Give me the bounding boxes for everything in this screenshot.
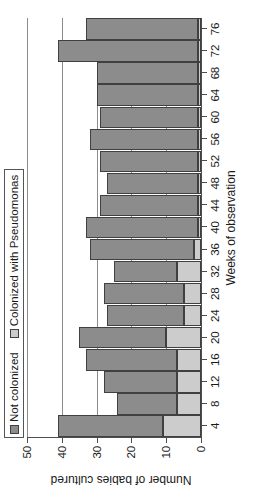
chart-legend: Not colonized Colonized with Pseudomonas [4,169,24,438]
bar-segment-not-colonized [97,62,198,83]
x-axis-tick-label: 48 [209,177,221,189]
x-axis-tick-label: 76 [209,23,221,35]
x-axis-tick-label: 20 [209,332,221,344]
y-axis-tick [27,437,28,443]
x-axis-tick-label: 24 [209,310,221,322]
bar-segment-not-colonized [100,195,197,216]
y-axis-tick-label: 10 [160,446,172,458]
bar-segment-colonized [198,195,201,216]
x-axis-tick-label: 12 [209,376,221,388]
bar-group [27,173,201,194]
y-axis-tick-label: 20 [125,446,137,458]
y-axis-tick [201,437,202,443]
bar-segment-not-colonized [86,217,197,238]
x-axis-tick [201,138,207,139]
bar-group [27,371,201,392]
y-axis-tick-label: 30 [91,446,103,458]
legend-item-not-colonized: Not colonized [7,352,21,434]
bar-segment-colonized [198,18,201,39]
bar-group [27,40,201,61]
x-axis-tick-label: 60 [209,111,221,123]
legend-swatch-colonized-with-pseudomonas [10,329,19,338]
x-axis-tick-label: 28 [209,287,221,299]
x-axis-tick-label: 68 [209,67,221,79]
bar-group [27,129,201,150]
y-axis-tick [62,437,63,443]
bar-group [27,107,201,128]
y-axis-tick [97,437,98,443]
x-axis-tick-label: 72 [209,45,221,57]
bar-segment-not-colonized [107,173,197,194]
bar-segment-not-colonized [58,415,162,436]
bar-segment-colonized [177,261,201,282]
bar-segment-not-colonized [100,151,197,172]
bar-segment-not-colonized [79,327,166,348]
x-axis-tick [201,160,207,161]
x-axis-tick [201,271,207,272]
x-axis-tick [201,72,207,73]
bar-group [27,195,201,216]
y-axis-tick [131,437,132,443]
x-axis-tick [201,227,207,228]
bar-segment-colonized [177,371,201,392]
bar-segment-colonized [177,393,201,414]
bar-segment-not-colonized [117,393,176,414]
y-axis-tick-label: 40 [56,446,68,458]
bar-segment-colonized [163,415,201,436]
bar-group [27,393,201,414]
bar-segment-not-colonized [104,283,184,304]
x-axis-tick-label: 56 [209,133,221,145]
bar-segment-not-colonized [114,261,177,282]
x-axis-tick [201,425,207,426]
x-axis-tick-label: 44 [209,199,221,211]
bar-group [27,327,201,348]
x-axis-tick [201,359,207,360]
x-axis-tick [201,403,207,404]
legend-label-colonized-with-pseudomonas: Colonized with Pseudomonas [7,175,21,327]
x-axis-tick [201,337,207,338]
x-axis-tick [201,293,207,294]
chart-figure: Not colonized Colonized with Pseudomonas… [0,0,271,501]
x-axis-tick-label: 16 [209,354,221,366]
bar-segment-colonized [198,85,201,106]
legend-label-not-colonized: Not colonized [7,352,21,422]
bar-group [27,151,201,172]
bar-group [27,239,201,260]
x-axis-tick [201,249,207,250]
y-axis-title: Number of babies cultured [34,473,209,487]
bar-segment-not-colonized [104,371,177,392]
bar-segment-not-colonized [97,85,198,106]
bar-group [27,349,201,370]
legend-item-colonized-with-pseudomonas: Colonized with Pseudomonas [7,175,21,339]
x-axis-tick [201,50,207,51]
bar-segment-colonized [198,129,201,150]
x-axis-tick [201,182,207,183]
x-axis-tick-label: 32 [209,265,221,277]
bar-group [27,217,201,238]
y-axis-tick-label: 0 [195,446,207,452]
x-axis-tick-label: 64 [209,89,221,101]
x-axis-tick [201,204,207,205]
x-axis-tick-label: 40 [209,221,221,233]
bar-segment-colonized [177,349,201,370]
bar-segment-colonized [184,283,201,304]
y-axis-tick [166,437,167,443]
bar-segment-not-colonized [90,239,194,260]
bar-group [27,62,201,83]
bar-segment-colonized [198,217,201,238]
bar-group [27,305,201,326]
x-axis-tick [201,315,207,316]
bar-segment-not-colonized [107,305,184,326]
bar-segment-colonized [184,305,201,326]
x-axis-tick-label: 4 [209,423,221,429]
x-axis-tick [201,381,207,382]
bar-segment-colonized [198,151,201,172]
x-axis-tick [201,94,207,95]
bar-group [27,18,201,39]
x-axis-tick [201,116,207,117]
bar-segment-colonized [166,327,201,348]
x-axis-tick [201,28,207,29]
bar-segment-not-colonized [90,129,198,150]
x-axis-tick-label: 36 [209,243,221,255]
bar-segment-colonized [194,239,201,260]
